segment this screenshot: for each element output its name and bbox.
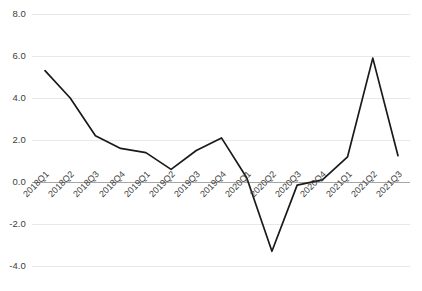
gridlines: [32, 15, 410, 267]
chart-plot-area: [0, 0, 422, 291]
y-axis-tick-label: -2.0: [0, 219, 26, 229]
y-axis-tick-label: 4.0: [0, 93, 26, 103]
y-axis-tick-label: 6.0: [0, 51, 26, 61]
y-axis-tick-label: -4.0: [0, 261, 26, 271]
series-polyline: [45, 58, 398, 251]
y-axis-tick-label: 2.0: [0, 135, 26, 145]
y-axis-tick-label: 8.0: [0, 9, 26, 19]
y-axis-tick-label: 0.0: [0, 177, 26, 187]
data-series-line: [45, 58, 398, 251]
line-chart: 8.06.04.02.00.0-2.0-4.0 2018Q12018Q22018…: [0, 0, 422, 291]
